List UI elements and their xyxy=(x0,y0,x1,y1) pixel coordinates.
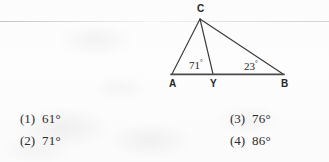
option-4-value: 86° xyxy=(252,134,271,147)
vertex-label-b: B xyxy=(281,79,288,89)
option-1-value: 61° xyxy=(42,112,61,125)
answer-options: (1) 61° (2) 71° (3) 76° (4) 86° xyxy=(0,104,329,162)
option-3-value: 76° xyxy=(252,112,271,125)
option-3[interactable]: (3) 76° xyxy=(230,112,271,125)
option-3-number: (3) xyxy=(230,112,252,125)
vertex-label-a: A xyxy=(169,79,176,89)
geometry-figure: A Y B C 71° 23° xyxy=(150,0,310,100)
angle-label-b-degree: ° xyxy=(255,59,258,67)
angle-label-y: 71° xyxy=(189,60,203,71)
option-2[interactable]: (2) 71° xyxy=(20,134,61,147)
option-1[interactable]: (1) 61° xyxy=(20,112,61,125)
angle-label-b: 23° xyxy=(244,61,258,72)
option-1-number: (1) xyxy=(20,112,42,125)
option-2-value: 71° xyxy=(42,134,61,147)
vertex-label-y: Y xyxy=(210,79,217,89)
option-4-number: (4) xyxy=(230,134,252,147)
option-4[interactable]: (4) 86° xyxy=(230,134,271,147)
vertex-label-c: C xyxy=(197,4,204,14)
option-2-number: (2) xyxy=(20,134,42,147)
angle-label-y-value: 71 xyxy=(189,59,200,71)
angle-label-b-value: 23 xyxy=(244,60,255,72)
segment-cb xyxy=(200,19,283,74)
angle-label-y-degree: ° xyxy=(200,58,203,66)
